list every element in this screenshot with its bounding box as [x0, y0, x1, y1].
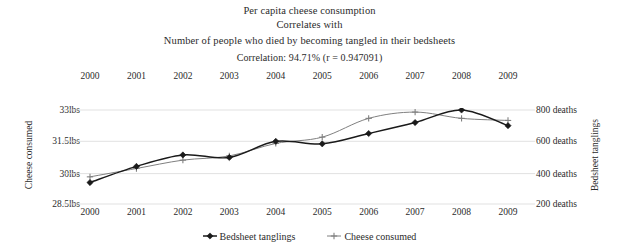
x-tick-2006: 2006: [349, 207, 389, 217]
x-axis-years-bottom: 2000200120022003200420052006200720082009: [63, 207, 535, 221]
point-bedsheet-tanglings-2006: [366, 130, 372, 136]
x-tick-2008: 2008: [442, 71, 482, 81]
y-tick-right-3: 200 deaths: [536, 198, 577, 210]
point-bedsheet-tanglings-2000: [87, 179, 93, 185]
x-tick-2002: 2002: [163, 207, 203, 217]
correlation-label: Correlation: 94.71% (r = 0.947091): [0, 51, 619, 65]
chart-title-block: Per capita cheese consumption Correlates…: [0, 4, 619, 65]
series-line-1: [90, 112, 508, 177]
x-tick-2003: 2003: [209, 207, 249, 217]
series-cheese-consumed: [87, 109, 511, 180]
x-tick-2007: 2007: [395, 207, 435, 217]
y-tick-right-1: 600 deaths: [536, 135, 577, 147]
plus-marker-icon: [327, 231, 341, 241]
y-tick-right-2: 400 deaths: [536, 168, 577, 180]
y-axis-right-title: Bedsheet tanglings: [590, 105, 600, 205]
point-bedsheet-tanglings-2002: [180, 152, 186, 158]
legend-marker-0: [203, 233, 217, 239]
x-tick-2004: 2004: [256, 71, 296, 81]
legend-label-0: Bedsheet tanglings: [220, 231, 296, 242]
x-tick-2001: 2001: [116, 71, 156, 81]
legend-diamond-0: [207, 233, 213, 239]
plot-svg: [63, 108, 535, 206]
x-tick-2005: 2005: [302, 71, 342, 81]
x-tick-2004: 2004: [256, 207, 296, 217]
x-axis-years-top: 2000200120022003200420052006200720082009: [63, 71, 535, 85]
series-line-0: [90, 110, 508, 183]
x-tick-2002: 2002: [163, 71, 203, 81]
title-line-2: Correlates with: [0, 18, 619, 32]
x-tick-2009: 2009: [488, 71, 528, 81]
legend-label-1: Cheese consumed: [344, 231, 416, 242]
diamond-marker-icon: [203, 231, 217, 241]
legend-marker-1: [327, 233, 341, 239]
title-line-3: Number of people who died by becoming ta…: [0, 34, 619, 48]
x-tick-2001: 2001: [116, 207, 156, 217]
y-axis-left-title: Cheese consumed: [24, 105, 34, 205]
point-bedsheet-tanglings-2009: [505, 123, 511, 129]
x-tick-2003: 2003: [209, 71, 249, 81]
x-tick-2006: 2006: [349, 71, 389, 81]
x-tick-2007: 2007: [395, 71, 435, 81]
point-bedsheet-tanglings-2007: [412, 119, 418, 125]
x-tick-2008: 2008: [442, 207, 482, 217]
legend-item-0[interactable]: Bedsheet tanglings: [203, 230, 296, 242]
legend-item-1[interactable]: Cheese consumed: [327, 230, 416, 242]
x-tick-2009: 2009: [488, 207, 528, 217]
y-tick-right-0: 800 deaths: [536, 104, 577, 116]
point-bedsheet-tanglings-2008: [458, 108, 464, 113]
x-tick-2005: 2005: [302, 207, 342, 217]
chart-legend: Bedsheet tanglingsCheese consumed: [0, 229, 619, 242]
title-line-1: Per capita cheese consumption: [0, 4, 619, 18]
plot-area: [63, 108, 535, 206]
spurious-correlation-chart: Per capita cheese consumption Correlates…: [0, 0, 619, 245]
